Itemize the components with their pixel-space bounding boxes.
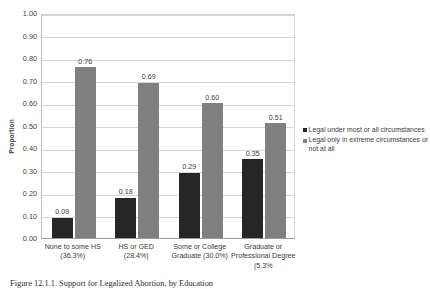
- bar[interactable]: [75, 67, 96, 238]
- y-axis-tick-label: 0.90: [11, 33, 37, 41]
- bar[interactable]: [202, 103, 223, 238]
- bar[interactable]: [138, 83, 159, 238]
- bar-value-label: 0.35: [238, 150, 267, 158]
- y-axis-tick-label: 0.30: [11, 168, 37, 176]
- bar-value-label: 0.18: [111, 188, 140, 196]
- bar-value-label: 0.29: [175, 163, 204, 171]
- x-axis-tick-label: Graduate orProfessional Degree(5.3%: [226, 243, 302, 271]
- y-axis-tick-labels: 0.000.100.200.300.400.500.600.700.800.90…: [9, 0, 37, 287]
- bar-group: 0.090.76: [42, 15, 106, 238]
- y-axis-tick-label: 0.60: [11, 100, 37, 108]
- figure-caption: Figure 12.1.1. Support for Legalized Abo…: [10, 279, 310, 289]
- legend-swatch-icon: [303, 128, 307, 132]
- bar-value-label: 0.09: [48, 208, 77, 216]
- chart-legend: Legal under most or all circumstancesLeg…: [303, 126, 430, 155]
- bar[interactable]: [52, 218, 73, 238]
- bar-group: 0.290.60: [169, 15, 233, 238]
- plot-area: 0.090.760.180.690.290.600.350.51: [41, 14, 295, 239]
- y-axis-tick-label: 0.70: [11, 78, 37, 86]
- y-axis-tick-label: 0.80: [11, 55, 37, 63]
- bar[interactable]: [265, 123, 286, 238]
- x-axis-tick-label-line: Graduate or: [226, 243, 302, 252]
- legend-entry[interactable]: Legal under most or all circumstances: [303, 126, 430, 134]
- legend-label: Legal under most or all circumstances: [309, 126, 425, 134]
- y-axis-tick-label: 0.40: [11, 145, 37, 153]
- bar[interactable]: [115, 198, 136, 239]
- legend-swatch-icon: [303, 139, 307, 143]
- legend-label: Legal only in extreme circumstances or n…: [309, 136, 430, 153]
- y-axis-tick-label: 0.50: [11, 123, 37, 131]
- bar-group: 0.180.69: [106, 15, 170, 238]
- bar-value-label: 0.51: [261, 114, 290, 122]
- x-axis-tick-label-line: Professional Degree: [226, 252, 302, 261]
- x-axis-tick-label-line: (5.3%: [226, 262, 302, 271]
- y-axis-tick-label: 1.00: [11, 10, 37, 18]
- y-axis-tick-label: 0.20: [11, 190, 37, 198]
- y-axis-tick-label: 0.00: [11, 235, 37, 243]
- legend-entry[interactable]: Legal only in extreme circumstances or n…: [303, 136, 430, 153]
- bar[interactable]: [179, 173, 200, 238]
- bar-value-label: 0.76: [71, 58, 100, 66]
- bar-group: 0.350.51: [233, 15, 297, 238]
- bar[interactable]: [242, 159, 263, 238]
- bar-value-label: 0.60: [198, 94, 227, 102]
- y-axis-tick-label: 0.10: [11, 213, 37, 221]
- bar-value-label: 0.69: [134, 73, 163, 81]
